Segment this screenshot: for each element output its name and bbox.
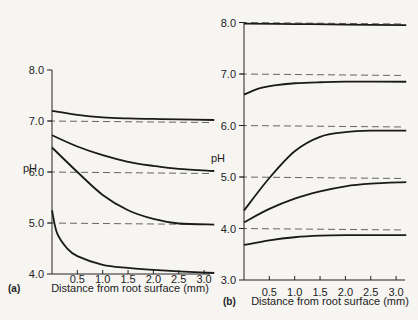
data-series-line [52,148,214,225]
reference-line [48,121,210,123]
y-tick-label: 8.0 [29,64,44,76]
panel-label: (a) [8,283,20,294]
data-series-line [244,235,406,245]
panel-a: 4.05.06.07.08.00.51.01.52.02.53.0pHDista… [8,64,214,294]
data-series-line [52,135,214,171]
x-axis-title: Distance from root surface (mm) [251,295,409,307]
y-tick-label: 3.0 [221,274,236,286]
reference-line [240,229,405,231]
y-tick-label: 8.0 [221,17,236,29]
reference-line [240,177,405,179]
x-axis-title: Distance from root surface (mm) [51,282,209,294]
y-axis-title: pH [23,162,37,174]
reference-line [240,126,405,128]
chart-canvas: 4.05.06.07.08.00.51.01.52.02.53.0pHDista… [0,0,418,320]
y-tick-label: 4.0 [29,268,44,280]
data-series-line [52,111,214,120]
y-tick-label: 5.0 [221,171,236,183]
data-series-line [244,131,406,211]
panel-label: (b) [223,296,236,307]
panel-b: 3.04.05.06.07.08.00.51.01.52.02.53.0pHDi… [211,17,409,308]
y-tick-label: 6.0 [221,120,236,132]
reference-line [48,172,210,174]
y-tick-label: 4.0 [221,223,236,235]
y-axis-title: pH [211,152,225,164]
y-tick-label: 7.0 [29,115,44,127]
data-series-line [52,210,214,273]
data-series-line [244,182,406,222]
y-tick-label: 7.0 [221,68,236,80]
data-series-line [244,82,406,95]
y-tick-label: 5.0 [29,217,44,229]
data-series-line [244,24,406,26]
reference-line [240,74,405,76]
